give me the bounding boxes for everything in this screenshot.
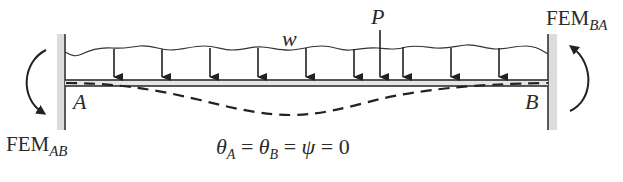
support-a-label: A bbox=[73, 89, 86, 115]
fem-ab-label: FEMAB bbox=[6, 132, 68, 160]
distributed-load-arrows bbox=[114, 47, 499, 77]
fem-ba-label: FEMBA bbox=[546, 6, 608, 34]
fem-ba-base: FEM bbox=[546, 6, 589, 30]
theta-b-symbol: θ bbox=[259, 134, 270, 159]
fem-ab-base: FEM bbox=[6, 132, 49, 156]
moment-arrow-left bbox=[27, 50, 46, 112]
equals-sign: = bbox=[235, 134, 258, 159]
a-label: A bbox=[73, 89, 86, 114]
right-fixed-support bbox=[548, 34, 557, 130]
equals-zero: = 0 bbox=[315, 134, 349, 159]
equals-sign: = bbox=[278, 134, 301, 159]
left-fixed-support bbox=[57, 34, 65, 130]
theta-a-symbol: θ bbox=[216, 134, 227, 159]
psi-symbol: ψ bbox=[302, 134, 316, 159]
p-label: P bbox=[371, 4, 384, 29]
theta-b-subscript: B bbox=[270, 147, 279, 162]
fem-ba-subscript: BA bbox=[589, 17, 607, 33]
point-load-label: P bbox=[371, 4, 384, 30]
b-label: B bbox=[525, 89, 538, 114]
distributed-load-label: w bbox=[282, 26, 297, 52]
deflected-shape-curve bbox=[66, 83, 548, 115]
w-label: w bbox=[282, 26, 297, 51]
moment-arrow-right bbox=[570, 48, 588, 111]
fem-ab-subscript: AB bbox=[49, 143, 67, 159]
support-b-label: B bbox=[525, 89, 538, 115]
boundary-condition-equation: θA = θB = ψ = 0 bbox=[216, 134, 350, 163]
